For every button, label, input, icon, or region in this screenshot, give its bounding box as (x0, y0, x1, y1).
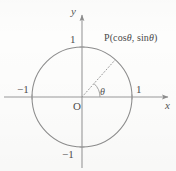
tick-label-x-positive: 1 (136, 84, 142, 95)
theta-angle-label: θ (100, 87, 105, 97)
point-label: P(cosθ, sinθ) (104, 33, 157, 43)
unit-circle-figure: y x O 1 −1 1 −1 θ P(cosθ, sinθ) (0, 0, 176, 171)
point-close-paren: ) (154, 32, 157, 43)
tick-label-y-negative: −1 (62, 149, 74, 160)
point-separator: , (132, 32, 135, 43)
origin-label: O (73, 101, 81, 112)
tick-label-y-positive: 1 (70, 34, 76, 45)
point-cos: cos (113, 32, 127, 43)
tick-label-x-negative: −1 (17, 84, 29, 95)
point-sin: sin (137, 32, 149, 43)
y-axis-label: y (71, 6, 76, 17)
x-axis-label: x (165, 100, 170, 111)
radius-to-point (82, 60, 115, 97)
